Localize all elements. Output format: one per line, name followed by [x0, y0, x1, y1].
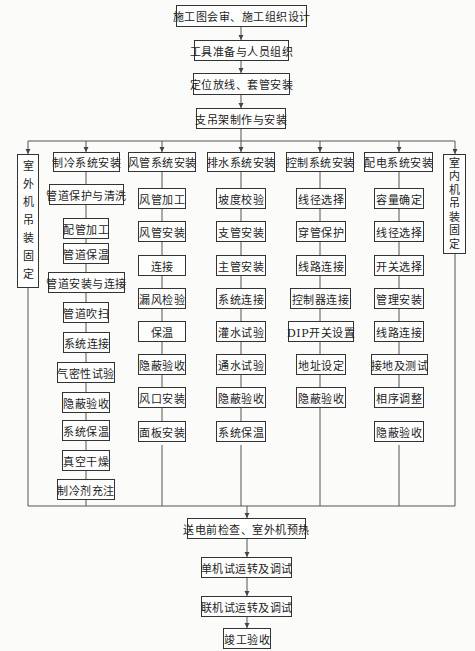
side-right-char: 吊	[449, 197, 460, 211]
side-left-char: 固	[23, 248, 34, 266]
refrigeration-step-7: 气密性试验	[57, 362, 115, 383]
power-header: 配电系统安装	[364, 152, 433, 172]
control-header: 控制系统安装	[286, 152, 354, 172]
power-step-2: 线径选择	[374, 221, 424, 242]
power-step-6: 接地及测试	[371, 354, 428, 375]
duct-step-2: 风管安装	[138, 221, 186, 242]
refrigeration-step-9: 系统保温	[62, 420, 110, 441]
top-step-3: 定位放线、套管安装	[193, 73, 290, 95]
power-step-4: 管理安装	[374, 288, 424, 309]
refrigeration-step-6: 系统连接	[63, 332, 110, 353]
top-step-4: 支吊架制作与安装	[196, 108, 286, 129]
drainage-step-1: 坡度校验	[216, 188, 266, 209]
side-left-char: 机	[23, 194, 34, 212]
power-step-1: 容量确定	[374, 188, 424, 209]
refrigeration-step-3: 管道保温	[63, 243, 109, 264]
duct-header: 风管系统安装	[128, 152, 196, 172]
control-step-1: 线径选择	[296, 188, 346, 209]
side-right-char: 内	[449, 170, 460, 184]
duct-step-7: 风口安装	[138, 387, 186, 408]
refrigeration-step-1: 管道保护与清洗	[49, 184, 124, 205]
top-step-2: 工具准备与人员组织	[194, 40, 289, 61]
side-left-char: 室	[23, 158, 34, 176]
bottom-step-1: 送电前检查、室外机预热	[187, 518, 306, 539]
bottom-step-2: 单机试运转及调试	[201, 557, 292, 578]
refrigeration-step-5: 管道吹扫	[63, 302, 109, 323]
refrigeration-step-4: 管道安装与连接	[48, 272, 125, 293]
power-step-3: 开关选择	[374, 255, 424, 276]
bottom-step-4: 竣工验收	[223, 628, 271, 649]
control-step-3: 线路连接	[296, 255, 346, 276]
side-right-char: 室	[449, 157, 460, 171]
bottom-step-3: 联机试运转及调试	[201, 596, 292, 617]
duct-step-5: 保温	[138, 321, 186, 342]
duct-step-8: 面板安装	[138, 421, 186, 442]
side-left-char: 外	[23, 176, 34, 194]
refrigeration-step-11: 制冷剂充注	[57, 479, 115, 500]
drainage-step-8: 系统保温	[216, 421, 266, 442]
power-step-7: 相序调整	[374, 387, 424, 408]
control-step-4: 控制器连接	[290, 288, 351, 309]
drainage-step-6: 通水试验	[216, 354, 266, 375]
side-left-char: 装	[23, 230, 34, 248]
duct-step-4: 漏风检验	[138, 288, 186, 309]
side-right-char: 定	[449, 238, 460, 252]
duct-step-1: 风管加工	[138, 188, 186, 209]
control-step-5: DIP开关设置	[288, 321, 354, 342]
drainage-step-4: 系统连接	[216, 288, 266, 309]
drainage-step-2: 支管安装	[216, 221, 266, 242]
control-step-7: 隐蔽验收	[296, 387, 346, 408]
side-right-char: 固	[449, 224, 460, 238]
duct-step-3: 连接	[138, 255, 186, 276]
drainage-header: 排水系统安装	[207, 152, 275, 172]
drainage-step-3: 主管安装	[216, 255, 266, 276]
refrigeration-step-8: 隐蔽验收	[62, 392, 110, 413]
power-step-8: 隐蔽验收	[374, 421, 424, 442]
duct-step-6: 隐蔽验收	[138, 354, 186, 375]
indoor-unit-install-box: 室 内 机 吊 装 固 定	[443, 154, 466, 254]
side-right-char: 机	[449, 184, 460, 198]
power-step-5: 线路连接	[374, 321, 424, 342]
drainage-step-7: 隐蔽验收	[216, 387, 266, 408]
side-right-char: 装	[449, 211, 460, 225]
control-step-6: 地址设定	[296, 354, 346, 375]
outdoor-unit-install-box: 室 外 机 吊 装 固 定	[17, 154, 39, 288]
refrigeration-step-2: 配管加工	[63, 218, 109, 239]
side-left-char: 定	[23, 266, 34, 284]
side-left-char: 吊	[23, 212, 34, 230]
control-step-2: 穿管保护	[296, 221, 346, 242]
refrigeration-step-10: 真空干燥	[62, 450, 110, 471]
drainage-step-5: 灌水试验	[216, 321, 266, 342]
top-step-1: 施工图会审、施工组织设计	[176, 5, 307, 27]
refrigeration-header: 制冷系统安装	[53, 152, 120, 172]
